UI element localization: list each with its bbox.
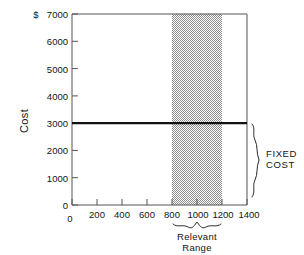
fixed-cost-label-line2: COST [266, 159, 295, 170]
y-tick-label-5000: 5000 [47, 64, 68, 75]
y-tick-label-0: 0 [63, 200, 68, 211]
relevant-range-brace [173, 222, 221, 228]
chart-canvas: $ 7000 6000 5000 4000 3000 2000 1000 0 C… [0, 0, 304, 255]
fixed-cost-brace [252, 124, 259, 197]
y-tick-label-6000: 6000 [47, 36, 68, 47]
cost-behavior-chart: $ 7000 6000 5000 4000 3000 2000 1000 0 C… [0, 0, 304, 255]
x-tick-label-1200: 1200 [212, 209, 233, 220]
fixed-cost-label-line1: FIXED [266, 148, 297, 159]
y-tick-label-1000: 1000 [47, 173, 68, 184]
y-axis-title: Cost [18, 109, 30, 133]
relevant-range-label-line1: Relevant [177, 231, 217, 242]
x-tick-label-800: 800 [164, 209, 180, 220]
relevant-range-band [172, 14, 222, 205]
x-tick-label-400: 400 [114, 209, 130, 220]
y-tick-label-4000: 4000 [47, 91, 68, 102]
x-tick-label-1000: 1000 [187, 209, 208, 220]
y-tick-label-2000: 2000 [47, 145, 68, 156]
y-tick-label-7000: 7000 [47, 9, 68, 20]
x-tick-label-1400: 1400 [238, 209, 259, 220]
x-tick-label-0: 0 [67, 213, 72, 224]
x-tick-label-200: 200 [89, 209, 105, 220]
currency-symbol: $ [33, 9, 39, 20]
y-tick-label-3000: 3000 [47, 118, 68, 129]
relevant-range-label-line2: Range [182, 242, 212, 253]
x-tick-label-600: 600 [139, 209, 155, 220]
